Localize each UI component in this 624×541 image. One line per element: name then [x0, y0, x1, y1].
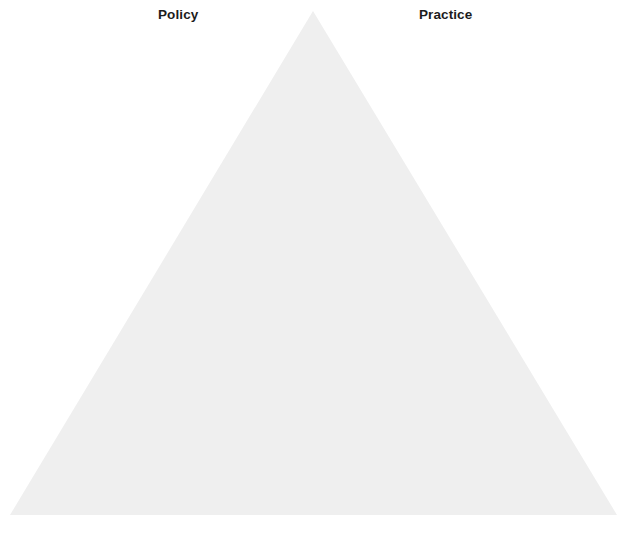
triangle-polygon [10, 11, 617, 515]
label-policy: Policy [158, 7, 198, 23]
label-practice: Practice [419, 7, 472, 23]
diagram-canvas: Policy Practice [0, 0, 624, 541]
triangle-shape [0, 0, 624, 541]
